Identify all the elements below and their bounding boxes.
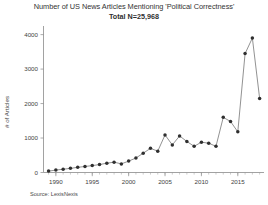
data-point xyxy=(171,143,175,147)
x-tick-label: 1995 xyxy=(85,178,99,185)
chart-figure: Number of US News Articles Mentioning 'P… xyxy=(0,0,268,205)
x-axis-tick-labels: 199019952000200520102015 xyxy=(49,178,245,185)
data-point xyxy=(105,161,109,165)
data-point xyxy=(222,116,226,120)
x-tick-label: 2010 xyxy=(195,178,209,185)
x-tick-label: 2015 xyxy=(231,178,245,185)
data-point xyxy=(156,149,160,153)
y-axis-tick-labels: 01000200030004000 xyxy=(24,31,38,176)
data-point xyxy=(134,156,138,160)
data-point xyxy=(112,160,116,164)
data-point xyxy=(141,151,145,155)
y-tick-label: 1000 xyxy=(24,134,38,141)
data-point xyxy=(120,162,124,166)
data-point xyxy=(54,168,58,172)
data-point xyxy=(47,169,51,173)
data-series-line xyxy=(49,38,260,171)
data-point xyxy=(69,167,73,171)
data-point xyxy=(236,130,240,134)
data-series-points xyxy=(47,36,262,173)
x-tick-label: 2005 xyxy=(158,178,172,185)
data-point xyxy=(185,140,189,144)
x-axis-ticks xyxy=(56,173,238,177)
y-tick-label: 2000 xyxy=(24,100,38,107)
data-point xyxy=(149,147,153,151)
data-point xyxy=(83,165,87,169)
data-point xyxy=(76,166,80,170)
y-axis-ticks xyxy=(41,35,44,173)
data-point xyxy=(61,167,65,171)
data-point xyxy=(91,164,95,168)
data-point xyxy=(214,145,218,149)
line-chart-plot: 01000200030004000 1990199520002005201020… xyxy=(0,0,268,205)
y-tick-label: 0 xyxy=(35,169,39,176)
data-point xyxy=(251,36,255,40)
data-point xyxy=(127,159,131,163)
data-point xyxy=(178,134,182,138)
data-point xyxy=(163,133,167,137)
x-tick-label: 1990 xyxy=(49,178,63,185)
y-axis-title: # of Articles xyxy=(3,96,10,128)
data-point xyxy=(98,163,102,167)
data-point xyxy=(229,120,233,124)
data-point xyxy=(258,97,262,101)
x-tick-label: 2000 xyxy=(122,178,136,185)
y-tick-label: 3000 xyxy=(24,65,38,72)
data-point xyxy=(207,141,211,145)
data-point xyxy=(192,145,196,149)
data-point xyxy=(200,140,204,144)
data-point xyxy=(243,52,247,56)
source-caption: Source: LexisNexis xyxy=(30,191,78,197)
y-tick-label: 4000 xyxy=(24,31,38,38)
